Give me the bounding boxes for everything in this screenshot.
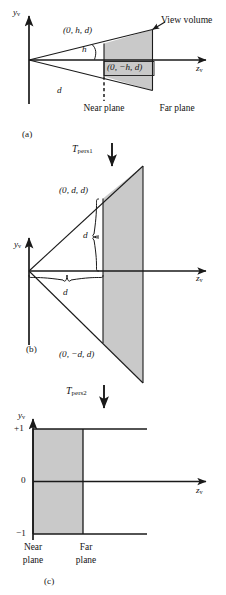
panel-b-top-corner-label: (0, d, d)	[59, 186, 88, 195]
panel-a-view-volume-label: View volume	[161, 15, 212, 25]
panel-b-horizontal-brace	[29, 275, 103, 281]
panel-c-near-plane-label-line2: plane	[23, 556, 43, 565]
panel-a-z-axis-label: zv	[196, 64, 203, 74]
panel-c-graphic	[33, 419, 206, 540]
panel-a-top-corner-label: (0, h, d)	[63, 26, 92, 35]
panel-c-caption: (c)	[44, 577, 54, 586]
panel-c-y-axis-label: yv	[18, 411, 25, 421]
panel-b-bottom-corner-label: (0, −d, d)	[59, 350, 94, 359]
panel-a-y-axis-label: yv	[13, 8, 20, 18]
transform-2-label: Tpers2	[66, 386, 87, 397]
panel-b-caption: (b)	[26, 345, 37, 354]
panel-b-view-volume-fill	[103, 166, 143, 383]
panel-c-z-axis-label: zv	[196, 486, 203, 496]
panel-b-graphic	[29, 166, 206, 383]
panel-c-tick-minus-one: −1	[16, 529, 26, 538]
panel-a-far-plane-label: Far plane	[159, 104, 194, 113]
panel-b-vertical-brace-label: d	[83, 231, 88, 240]
perspective-projection-figure: yv zv (0, h, d) (0, −h, d) h d View volu…	[0, 0, 226, 595]
panel-b-horizontal-brace-label: d	[63, 288, 68, 297]
panel-a-distance-label: d	[57, 86, 62, 95]
panel-c-far-plane-label-line1: Far	[80, 543, 93, 552]
panel-c-tick-zero: 0	[21, 476, 26, 485]
transform-1-label: Tpers1	[72, 144, 93, 155]
figure-canvas	[0, 0, 226, 595]
panel-b-vertical-brace	[93, 199, 99, 271]
panel-c-tick-plus-one: +1	[14, 424, 24, 433]
panel-a-near-plane-label: Near plane	[84, 104, 125, 113]
panel-c-far-plane-label-line2: plane	[76, 556, 96, 565]
panel-a-height-label: h	[82, 45, 87, 54]
panel-a-bottom-corner-label: (0, −h, d)	[107, 63, 142, 72]
panel-c-near-plane-label-line1: Near	[24, 543, 42, 552]
panel-a-h-angle-brace	[92, 45, 96, 60]
panel-a-graphic	[29, 16, 206, 104]
panel-b-z-axis-label: zv	[196, 274, 203, 284]
panel-a-caption: (a)	[22, 130, 32, 139]
panel-b-y-axis-label: yv	[14, 240, 21, 250]
